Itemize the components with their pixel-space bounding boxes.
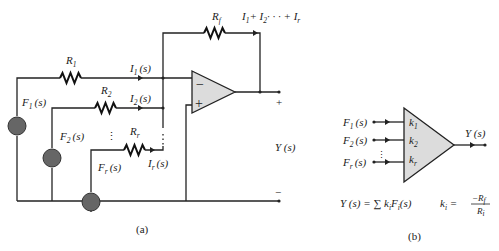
output-label: Y (s) — [275, 141, 296, 154]
caption-a: (a) — [136, 223, 149, 236]
input-f1: F1(s) — [342, 116, 367, 131]
ellipsis-b: ⋮ — [377, 150, 386, 160]
source-f2 — [43, 149, 61, 167]
output-y: Y (s) — [465, 127, 486, 140]
resistor-r2 — [95, 103, 116, 113]
label-f1: F1(s) — [21, 96, 46, 111]
label-i2: I2(s) — [129, 92, 151, 107]
opamp-plus: + — [195, 96, 203, 111]
output-plus: + — [276, 96, 282, 108]
input-fr: Fr(s) — [342, 156, 367, 171]
sum-equation: Y (s) = ∑ kiFi(s) — [340, 197, 412, 212]
input-f2: F2(s) — [342, 134, 367, 149]
label-r2: R2 — [100, 84, 112, 99]
gain-denominator: Ri — [476, 206, 485, 218]
resistor-r1 — [60, 73, 81, 83]
output-minus: − — [275, 186, 281, 198]
label-f2: F2(s) — [59, 130, 84, 145]
label-rf: Rf — [211, 10, 222, 25]
figure-b: ⋮ F1(s) F2(s) Fr(s) k1 k2 kr Y (s) Y (s)… — [340, 108, 490, 243]
label-fr: Fr(s) — [97, 161, 122, 176]
resistor-rf — [204, 28, 225, 38]
label-ir: Ir(s) — [147, 157, 169, 172]
source-f1 — [8, 117, 26, 135]
label-rr: Rr — [129, 125, 140, 140]
label-i1: I1(s) — [129, 62, 151, 77]
caption-b: (b) — [408, 230, 421, 243]
gain-definition-k: ki = — [440, 197, 457, 212]
source-fr — [82, 193, 100, 211]
label-feedback-current: I1+ I2· · · + Ir — [241, 10, 300, 25]
opamp-minus: − — [196, 77, 204, 92]
ellipsis: ⋮ — [106, 130, 117, 142]
circuit-diagram: − + Rf I1+ I2· · · + Ir R1 R2 Rr I1(s) I… — [0, 0, 499, 251]
figure-a: − + Rf I1+ I2· · · + Ir R1 R2 Rr I1(s) I… — [8, 10, 300, 236]
resistor-rr — [124, 145, 145, 155]
gain-numerator: −Rf — [472, 193, 487, 205]
label-r1: R1 — [65, 54, 76, 69]
